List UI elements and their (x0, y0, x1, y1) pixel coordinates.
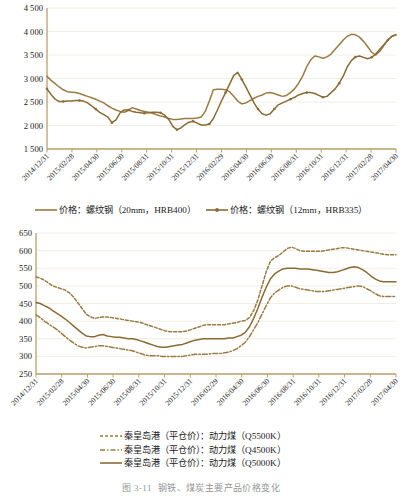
line-solid-icon (35, 206, 57, 214)
legend-item-q5000k[interactable]: 秦皇岛港（平仓价）：动力煤（Q5000K） (100, 456, 286, 469)
legend-label-q5500k: 秦皇岛港（平仓价）：动力煤（Q5500K） (124, 431, 286, 441)
series-marker (241, 78, 244, 81)
y-axis-tick-label: 4 500 (24, 3, 43, 13)
y-axis-tick-label: 250 (19, 369, 32, 379)
series-marker (289, 98, 292, 101)
series-line (47, 35, 396, 130)
legend-row: 秦皇岛港（平仓价）：动力煤（Q4500K） (0, 442, 402, 455)
steel-price-legend: 价格：螺纹钢（20mm，HRB400） 价格：螺纹钢（12mm，HRB335） (0, 203, 402, 216)
figure-container: 1 5002 0002 5003 0003 5004 0004 5002014/… (0, 0, 402, 496)
series-marker (143, 112, 146, 115)
steel-price-chart: 1 5002 0002 5003 0003 5004 0004 5002014/… (0, 0, 402, 196)
legend-item-hrb335[interactable]: 价格：螺纹钢（12mm，HRB335） (206, 203, 367, 216)
series-marker (192, 120, 195, 123)
series-marker (46, 88, 49, 91)
series-marker (354, 56, 357, 59)
series-marker (159, 112, 162, 115)
series-line (36, 247, 396, 332)
series-marker (370, 56, 373, 59)
y-axis-tick-label: 500 (19, 281, 32, 291)
y-axis-tick-label: 450 (19, 299, 32, 309)
legend-label-q5000k: 秦皇岛港（平仓价）：动力煤（Q5000K） (124, 458, 286, 468)
figure-caption: 图 3-11钢铁、煤炭主要产品价格变化 (0, 481, 402, 494)
legend-row: 秦皇岛港（平仓价）：动力煤（Q5500K） (0, 429, 402, 442)
caption-number: 图 3-11 (122, 483, 152, 493)
y-axis-tick-label: 1 500 (24, 144, 43, 154)
y-axis-tick-label: 600 (19, 246, 32, 256)
y-axis-tick-label: 300 (19, 351, 32, 361)
x-axis-tick-label: 2017/04/30 (369, 151, 400, 182)
y-axis-tick-label: 3 000 (24, 74, 43, 84)
coal-price-plot: 2503003504004505005506006502014/12/31201… (0, 225, 402, 421)
series-marker (208, 123, 211, 126)
series-marker (273, 108, 276, 111)
series-marker (94, 108, 97, 111)
legend-row: 秦皇岛港（平仓价）：动力煤（Q5000K） (0, 456, 402, 469)
series-marker (62, 100, 64, 103)
line-dashdot-icon (100, 446, 122, 454)
series-marker (127, 109, 130, 112)
series-marker (338, 82, 341, 85)
series-marker (305, 91, 308, 94)
legend-item-q4500k[interactable]: 秦皇岛港（平仓价）：动力煤（Q4500K） (100, 443, 286, 456)
x-axis-tick-label: 2017/04/30 (369, 376, 400, 407)
y-axis-tick-label: 350 (19, 334, 32, 344)
line-solid-icon (100, 459, 122, 467)
caption-text: 钢铁、煤炭主要产品价格变化 (158, 483, 280, 493)
series-marker (387, 39, 390, 42)
y-axis-tick-label: 550 (19, 263, 32, 273)
y-axis-tick-label: 400 (19, 316, 32, 326)
legend-item-hrb400[interactable]: 价格：螺纹钢（20mm，HRB400） (35, 203, 196, 216)
line-marker-icon (206, 206, 228, 214)
y-axis-tick-label: 4 000 (24, 27, 43, 37)
legend-label-hrb335: 价格：螺纹钢（12mm，HRB335） (230, 205, 367, 215)
legend-label-q4500k: 秦皇岛港（平仓价）：动力煤（Q4500K） (124, 444, 286, 454)
series-marker (257, 108, 260, 111)
series-marker (322, 96, 325, 99)
y-axis-tick-label: 650 (19, 228, 32, 238)
series-line (36, 267, 396, 347)
series-marker (111, 121, 114, 124)
legend-label-hrb400: 价格：螺纹钢（20mm，HRB400） (59, 205, 196, 215)
series-marker (176, 128, 179, 131)
steel-price-plot: 1 5002 0002 5003 0003 5004 0004 5002014/… (0, 0, 402, 196)
y-axis-tick-label: 2 500 (24, 97, 43, 107)
legend-item-q5500k[interactable]: 秦皇岛港（平仓价）：动力煤（Q5500K） (100, 429, 286, 442)
coal-price-legend: 秦皇岛港（平仓价）：动力煤（Q5500K） 秦皇岛港（平仓价）：动力煤（Q450… (0, 429, 402, 469)
line-dashed-icon (100, 432, 122, 440)
series-marker (224, 91, 227, 94)
legend-row: 价格：螺纹钢（20mm，HRB400） 价格：螺纹钢（12mm，HRB335） (0, 203, 402, 216)
coal-price-chart: 2503003504004505005506006502014/12/31201… (0, 225, 402, 421)
series-marker (78, 99, 81, 102)
y-axis-tick-label: 3 500 (24, 50, 43, 60)
y-axis-tick-label: 2 000 (24, 121, 43, 131)
